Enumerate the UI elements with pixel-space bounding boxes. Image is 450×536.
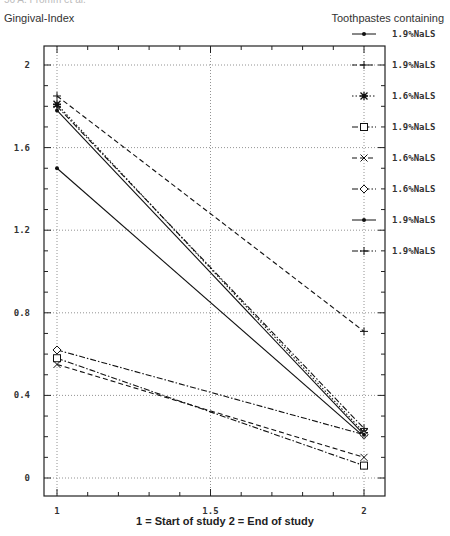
x-tick-label: 1.5	[202, 506, 218, 516]
marker-dot-icon	[362, 32, 366, 36]
marker-dot-icon	[55, 166, 59, 170]
y-tick-label: 0.4	[14, 390, 31, 400]
x-tick-label: 2	[361, 506, 366, 516]
series-line	[57, 110, 364, 434]
y-tick-label: 1.6	[14, 143, 30, 153]
legend-label: 1.9%NaLS	[392, 215, 435, 225]
marker-square-icon	[361, 124, 368, 131]
marker-diamond-icon	[53, 346, 61, 354]
legend-item-5: 1.6%NaLS	[352, 153, 435, 163]
series-line	[57, 96, 364, 331]
legend-item-2: 1.9%NaLS	[352, 60, 435, 70]
legend-label: 1.9%NaLS	[392, 29, 435, 39]
legend-item-8: 1.9%NaLS	[352, 246, 435, 256]
series-line	[57, 358, 364, 465]
legend-item-7: 1.9%NaLS	[352, 215, 435, 225]
legend-label: 1.9%NaLS	[392, 122, 435, 132]
legend-item-3: 1.6%NaLS	[352, 91, 435, 101]
series-3	[53, 100, 368, 436]
legend-item-1: 1.9%NaLS	[352, 29, 435, 39]
y-tick-label: 1.2	[14, 225, 30, 235]
marker-diamond-icon	[360, 185, 368, 193]
series-line	[57, 364, 364, 457]
x-tick-label: 1	[54, 506, 59, 516]
legend-item-4: 1.9%NaLS	[352, 122, 435, 132]
marker-plus-icon	[360, 327, 368, 335]
marker-square-icon	[361, 462, 368, 469]
y-tick-label: 0	[25, 473, 30, 483]
legend-item-6: 1.6%NaLS	[352, 184, 435, 194]
legend-label: 1.6%NaLS	[392, 184, 435, 194]
marker-dot-icon	[362, 433, 366, 437]
legend: 1.9%NaLS1.9%NaLS1.6%NaLS1.9%NaLS1.6%NaLS…	[352, 29, 435, 256]
marker-square-icon	[54, 355, 61, 362]
legend-label: 1.9%NaLS	[392, 60, 435, 70]
line-chart: 11.5200.40.81.21.62 1.9%NaLS1.9%NaLS1.6%…	[0, 0, 450, 536]
y-tick-label: 2	[25, 60, 30, 70]
legend-label: 1.9%NaLS	[392, 246, 435, 256]
tick-labels: 11.5200.40.81.21.62	[14, 60, 367, 516]
marker-star-icon	[360, 92, 368, 100]
legend-label: 1.6%NaLS	[392, 153, 435, 163]
y-tick-label: 0.8	[14, 308, 30, 318]
marker-plus-icon	[360, 61, 368, 69]
legend-label: 1.6%NaLS	[392, 91, 435, 101]
series-line	[57, 104, 364, 432]
marker-plus-icon	[360, 247, 368, 255]
marker-dot-icon	[362, 218, 366, 222]
